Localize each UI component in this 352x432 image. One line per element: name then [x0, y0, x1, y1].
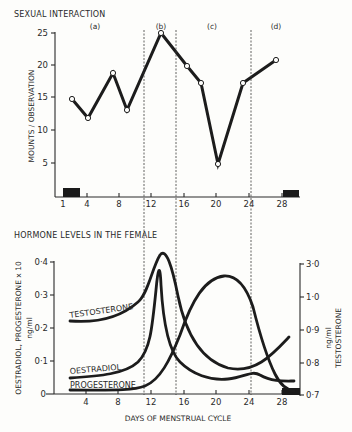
- x-tick-8: 8: [116, 199, 121, 209]
- x-tick-16: 16: [179, 199, 190, 209]
- right-tick-0.7: 0·7: [306, 390, 320, 400]
- bx-tick-4: 4: [83, 397, 88, 407]
- right-tick-1.0: 1·0: [306, 292, 320, 302]
- bx-tick-28: 28: [277, 397, 288, 407]
- x-tick-28: 28: [277, 199, 288, 209]
- y-tick-25: 25: [37, 28, 48, 38]
- left-tick-0: 0: [41, 389, 46, 399]
- top-x-tick-labels: 1 4 8 12 16 20 24 28: [60, 199, 287, 209]
- y-tick-20: 20: [37, 60, 48, 70]
- left-tick-0.2: 0·2: [34, 323, 48, 333]
- bottom-right-y-tick-labels: 3·0 1·0 0·9 0·8 0·7: [306, 259, 320, 400]
- top-y-axis-label: MOUNTS / OBSERVATION: [27, 70, 36, 163]
- testosterone-label: TESTOSTERONE: [68, 302, 134, 320]
- bottom-x-axis-label: DAYS OF MENSTRUAL CYCLE: [125, 414, 232, 423]
- y-tick-10: 10: [37, 125, 48, 135]
- bx-tick-20: 20: [211, 397, 222, 407]
- right-tick-3.0: 3·0: [306, 259, 320, 269]
- bottom-left-y-units: ng/ml: [25, 317, 34, 338]
- hormone-levels-chart: HORMONE LEVELS IN THE FEMALE 0·4 0·3 0·2…: [14, 231, 343, 423]
- sexual-interaction-chart: SEXUAL INTERACTION (a) (b) (c) (d) 25 20…: [14, 10, 300, 209]
- progesterone-label: PROGESTERONE: [70, 381, 136, 390]
- phase-label-b: (b): [156, 22, 167, 31]
- bx-tick-16: 16: [179, 397, 190, 407]
- menstruation-bar-end: [283, 190, 299, 197]
- phase-label-a: (a): [90, 22, 101, 31]
- bottom-chart-title: HORMONE LEVELS IN THE FEMALE: [14, 231, 157, 240]
- bx-tick-12: 12: [146, 397, 157, 407]
- x-tick-1: 1: [60, 199, 65, 209]
- top-chart-title: SEXUAL INTERACTION: [14, 10, 106, 19]
- left-tick-0.3: 0·3: [34, 290, 48, 300]
- bottom-left-y-tick-labels: 0·4 0·3 0·2 0·1 0: [34, 257, 48, 399]
- x-tick-12: 12: [146, 199, 157, 209]
- left-tick-0.1: 0·1: [34, 356, 48, 366]
- top-y-axis: [51, 32, 55, 197]
- x-tick-4: 4: [84, 199, 89, 209]
- bottom-x-tick-labels: 4 8 12 16 20 24 28: [83, 397, 287, 407]
- bx-tick-24: 24: [244, 397, 255, 407]
- figure: SEXUAL INTERACTION (a) (b) (c) (d) 25 20…: [0, 0, 352, 432]
- top-x-axis: [55, 193, 300, 197]
- x-tick-24: 24: [244, 199, 255, 209]
- bottom-left-y-label: OESTRADIOL, PROGESTERONE x 10: [14, 261, 23, 395]
- mounts-series-line: [72, 33, 276, 164]
- phase-label-d: (d): [271, 22, 282, 31]
- top-y-tick-labels: 25 20 15 10 5: [37, 28, 48, 168]
- bottom-right-y-label: TESTOSTERONE: [334, 308, 343, 369]
- y-tick-5: 5: [43, 158, 48, 168]
- left-tick-0.4: 0·4: [34, 257, 48, 267]
- phase-boundaries: [144, 30, 251, 395]
- bx-tick-8: 8: [115, 397, 120, 407]
- right-tick-0.8: 0·8: [306, 358, 320, 368]
- x-tick-20: 20: [211, 199, 222, 209]
- bottom-right-y-units: ng/ml: [324, 327, 333, 348]
- bottom-right-y-axis: [300, 263, 304, 396]
- right-tick-0.9: 0·9: [306, 325, 320, 335]
- y-tick-15: 15: [37, 92, 48, 102]
- menstruation-bar-start: [63, 188, 80, 197]
- phase-label-c: (c): [207, 22, 217, 31]
